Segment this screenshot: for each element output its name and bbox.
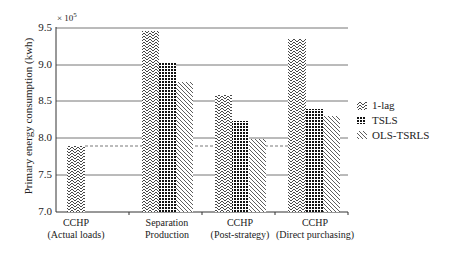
bar-direct-tsls	[306, 109, 323, 212]
bar-separation-tsls	[159, 63, 176, 212]
y-tick: 7.5	[28, 168, 52, 180]
y-multiplier: × 105	[57, 11, 77, 23]
legend-label-1lag: 1-lag	[372, 99, 395, 111]
legend-label-olstsrls: OLS-TSRLS	[372, 129, 429, 141]
y-tick: 8.5	[28, 94, 52, 106]
y-tick: 7.0	[28, 205, 52, 217]
legend-label-tsls: TSLS	[372, 114, 398, 126]
x-category-cchp-direct: CCHP(Direct purchasing)	[260, 217, 370, 241]
bar-direct-olstsrls	[323, 116, 340, 212]
bar-post-olstsrls	[249, 139, 266, 212]
bar-direct-1lag	[288, 39, 306, 212]
bar-post-1lag	[215, 95, 232, 212]
y-tick: 9.5	[28, 21, 52, 33]
legend-swatch-1lag	[357, 102, 367, 110]
bar-separation-olstsrls	[176, 82, 193, 212]
y-tick: 9.0	[28, 58, 52, 70]
legend-swatch-tsls	[357, 117, 366, 124]
bar-post-tsls	[232, 121, 249, 212]
bars	[67, 31, 340, 212]
bar-cchp-actual-1lag	[67, 146, 85, 212]
y-tick: 8.0	[28, 131, 52, 143]
bar-separation-1lag	[142, 31, 159, 212]
legend-swatch-olstsrls	[357, 131, 367, 139]
